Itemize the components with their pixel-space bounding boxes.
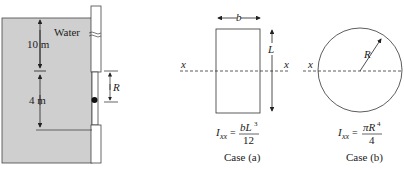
case-a-formula-eq: = bbox=[230, 127, 236, 138]
gate-height-4m-label: 4 m bbox=[29, 94, 46, 106]
case-a-length-l-label: L bbox=[267, 43, 274, 55]
depth-10m-label: 10 m bbox=[27, 38, 50, 50]
case-a-formula-num-exp: 3 bbox=[254, 120, 258, 128]
case-a-x-left-label: x bbox=[180, 58, 186, 70]
case-b-caption: Case (b) bbox=[346, 151, 383, 164]
case-a-caption: Case (a) bbox=[224, 151, 261, 164]
case-a-x-right-label: x bbox=[283, 58, 289, 70]
case-b-formula-num-exp: 4 bbox=[377, 120, 381, 128]
case-b-formula-sub: xx bbox=[341, 132, 350, 141]
case-a-formula-den: 12 bbox=[243, 134, 254, 146]
case-b-formula-num: πR bbox=[363, 121, 376, 133]
case-a-formula-num: bL bbox=[240, 121, 252, 133]
lower-wall bbox=[91, 125, 101, 163]
upper-wall bbox=[91, 6, 101, 72]
case-b-formula-eq: = bbox=[352, 127, 358, 138]
case-b-figure: x R I xx = πR 4 4 Case (b) bbox=[303, 28, 402, 164]
hydrostatic-gate-diagram: 10 m 4 m Water R b x x L I xx = bL 3 12 … bbox=[0, 0, 404, 170]
tank-figure: 10 m 4 m Water R bbox=[2, 6, 120, 163]
case-b-x-left-label: x bbox=[307, 58, 313, 70]
case-b-formula-den: 4 bbox=[369, 134, 375, 146]
case-b-circle bbox=[318, 28, 402, 112]
hinge-pin bbox=[92, 97, 98, 103]
case-b-radius-r-label: R bbox=[363, 48, 371, 60]
case-a-formula-sub: xx bbox=[219, 132, 228, 141]
case-a-figure: b x x L I xx = bL 3 12 Case (a) bbox=[180, 11, 290, 164]
hinge-offset-r-label: R bbox=[112, 81, 120, 93]
water-label: Water bbox=[54, 26, 80, 38]
case-a-width-b-label: b bbox=[236, 11, 242, 23]
